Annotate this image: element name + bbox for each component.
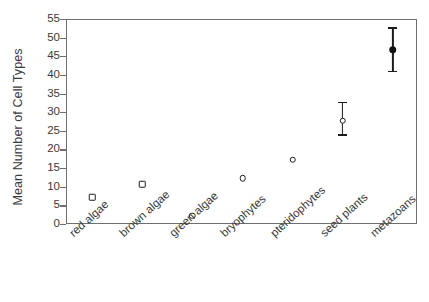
data-point: [389, 46, 397, 54]
data-point: [139, 181, 146, 188]
data-point-marker: [289, 157, 296, 164]
y-axis-tick-label: 45: [34, 50, 60, 62]
data-point-marker: [239, 175, 246, 182]
y-axis-tick-label: 50: [34, 32, 60, 44]
chart-figure: Mean Number of Cell Types 05101520253035…: [0, 0, 429, 302]
y-axis-tick-labels: 0510152025303540455055: [34, 0, 60, 302]
y-axis-tick-label: 40: [34, 69, 60, 81]
y-axis-tick-label: 35: [34, 88, 60, 100]
y-axis-tick-label: 5: [34, 199, 60, 211]
data-point-marker: [139, 181, 146, 188]
data-point: [239, 175, 246, 182]
y-axis-tick-label: 0: [34, 218, 60, 230]
y-axis-tick-label: 10: [34, 181, 60, 193]
y-axis-tick-label: 30: [34, 106, 60, 118]
y-axis-tick-mark: [60, 224, 66, 225]
y-axis-tick-label: 20: [34, 143, 60, 155]
data-point: [289, 157, 296, 164]
data-point: [340, 117, 347, 124]
y-axis-tick-label: 25: [34, 125, 60, 137]
y-axis-tick-label: 55: [34, 13, 60, 25]
y-axis-title: Mean Number of Cell Types: [11, 27, 25, 227]
data-point-marker: [89, 194, 96, 201]
y-axis-tick-label: 15: [34, 162, 60, 174]
data-point-marker: [340, 117, 347, 124]
data-point-marker: [389, 46, 397, 54]
data-point: [89, 194, 96, 201]
